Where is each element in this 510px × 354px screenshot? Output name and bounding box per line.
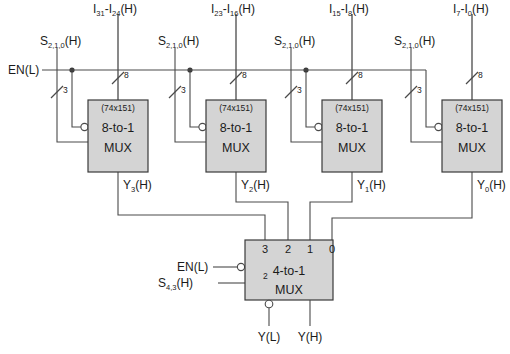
mux-c-select-label: S2,1,0(H): [274, 34, 315, 50]
mux4-input-1-label: 1: [307, 243, 313, 255]
mux4-input-0-label: 0: [329, 243, 335, 255]
mux-a-part-number: (74x151): [101, 103, 135, 113]
mux4-input-2-label: 2: [285, 243, 291, 255]
mux-b-title-line2: MUX: [222, 141, 250, 155]
mux4-title-line1: 4-to-1: [273, 264, 306, 278]
mux-a-title-line2: MUX: [104, 141, 132, 155]
mux-a-enable-wire: [72, 70, 81, 127]
mux-d-select-label: S2,1,0(H): [394, 34, 435, 50]
mux-d-enable-wire: [426, 70, 435, 127]
mux-c-output-label: Y1(H): [357, 178, 386, 194]
mux4-select-label: S4,3(H): [158, 276, 193, 292]
mux-c-title-line1: 8-to-1: [336, 121, 369, 135]
mux-a-select-bus-width: 3: [63, 85, 68, 95]
mux-d-enable-bubble: [435, 123, 442, 130]
mux-d-title-line2: MUX: [458, 141, 486, 155]
mux-a-data-bus-width: 8: [124, 70, 129, 80]
mux-d-title-line1: 8-to-1: [456, 121, 489, 135]
mux-b-select-bus-width: 3: [181, 85, 186, 95]
mux4-enable-bubble: [237, 263, 244, 270]
mux-c-title-line2: MUX: [338, 141, 366, 155]
mux-d-data-bus-width: 8: [478, 70, 483, 80]
enable-label: EN(L): [8, 63, 39, 77]
mux-b-part-number: (74x151): [219, 103, 253, 113]
mux-a-data-label: I31-I24(H): [93, 2, 137, 18]
mux-c-data-label: I15-I8(H): [329, 2, 369, 18]
data-input-labels: I31-I24(H) I23-I16(H) I15-I8(H) I7-I0(H): [93, 2, 489, 18]
mux-a-enable-bubble: [81, 123, 88, 130]
mux-b-data-bus-width: 8: [242, 70, 247, 80]
mux-b-select-label: S2,1,0(H): [158, 34, 199, 50]
mux-d-output-label: Y0(H): [477, 178, 506, 194]
select-labels: S2,1,0(H) S2,1,0(H) S2,1,0(H) S2,1,0(H): [40, 34, 435, 50]
mux4-output-low-bubble: [265, 300, 273, 308]
mux4-group: [213, 240, 333, 326]
mux4-input-3-label: 3: [262, 243, 268, 255]
mux-a-title-line1: 8-to-1: [102, 121, 135, 135]
mux-c-part-number: (74x151): [335, 103, 369, 113]
mux-c-data-bus-width: 8: [358, 70, 363, 80]
diagram-canvas: I31-I24(H) I23-I16(H) I15-I8(H) I7-I0(H)…: [0, 0, 510, 354]
mux-c-output-wire: [310, 172, 352, 240]
mux8-box-text: (74x151) 8-to-1 MUX (74x151) 8-to-1 MUX …: [101, 103, 489, 155]
mux4-output-high-label: Y(H): [298, 330, 323, 344]
mux4-output-low-label: Y(L): [258, 330, 281, 344]
mux4-select-bus-width: 2: [263, 271, 268, 281]
mux-c-select-bus-width: 3: [297, 85, 302, 95]
mux-d-select-bus-width: 3: [417, 85, 422, 95]
mux-b-enable-wire: [190, 70, 199, 127]
mux-a-select-label: S2,1,0(H): [40, 34, 81, 50]
mux-b-data-label: I23-I16(H): [211, 2, 255, 18]
mux8-output-labels: Y3(H) Y2(H) Y1(H) Y0(H): [123, 178, 506, 194]
mux-a-output-label: Y3(H): [123, 178, 152, 194]
mux-b-output-label: Y2(H): [241, 178, 270, 194]
mux-d-data-label: I7-I0(H): [453, 2, 489, 18]
mux-c-enable-wire: [306, 70, 315, 127]
circuit-diagram: I31-I24(H) I23-I16(H) I15-I8(H) I7-I0(H)…: [0, 0, 510, 354]
mux4-enable-label: EN(L): [177, 260, 208, 274]
mux-b-enable-bubble: [199, 123, 206, 130]
mux4-title-line2: MUX: [275, 283, 303, 297]
mux-c-enable-bubble: [315, 123, 322, 130]
mux-d-part-number: (74x151): [455, 103, 489, 113]
mux-d-output-wire: [332, 172, 472, 240]
mux-b-title-line1: 8-to-1: [220, 121, 253, 135]
